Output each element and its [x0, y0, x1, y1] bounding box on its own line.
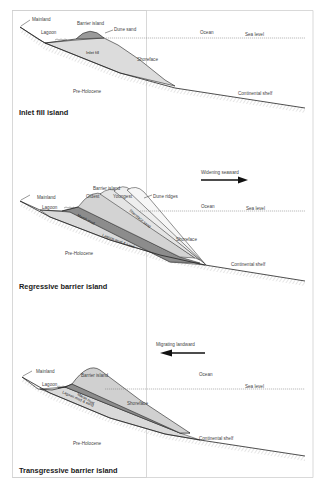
label-pre-holocene: Pre-Holocene: [73, 89, 102, 94]
label-ocean: Ocean: [201, 204, 215, 209]
panel-title-inlet-fill: Inlet fill island: [19, 108, 69, 117]
label-mainland: Mainland: [32, 17, 51, 22]
label-ocean: Ocean: [199, 372, 213, 377]
mainland-leader: [21, 195, 30, 200]
label-continental-shelf: Continental shelf: [231, 262, 266, 267]
label-oldest: Oldest: [86, 194, 100, 199]
label-dune-ridges: Dune ridges: [153, 194, 178, 199]
arrow-left-icon: [160, 350, 172, 357]
label-pre-holocene: Pre-Holocene: [73, 441, 102, 446]
label-barrier-island: Barrier island: [93, 186, 121, 191]
label-barrier-island: Barrier island: [77, 21, 105, 26]
label-lagoon: Lagoon: [41, 30, 57, 35]
label-continental-shelf: Continental shelf: [199, 436, 234, 441]
mainland-leader: [21, 20, 30, 26]
label-pre-holocene: Pre-Holocene: [65, 251, 94, 256]
barrier-island-diagram: Mainland Lagoon Barrier island Dune sand…: [0, 0, 332, 488]
label-migrating-landward: Migrating landward: [156, 342, 195, 347]
panel-title-transgressive: Transgressive barrier island: [19, 466, 118, 475]
label-lagoon: Lagoon: [42, 382, 58, 387]
label-mainland: Mainland: [37, 195, 56, 200]
label-sea-level: Sea level: [245, 384, 264, 389]
panel-title-regressive: Regressive barrier island: [19, 282, 108, 291]
label-shoreface: Shoreface: [127, 401, 148, 406]
dune-sand-leader: [105, 30, 113, 33]
label-shoreface: Shoreface: [137, 57, 158, 62]
label-inlet-fill: Inlet fill: [86, 50, 99, 55]
label-continental-shelf: Continental shelf: [238, 91, 273, 96]
dune-sand: [76, 31, 104, 39]
marsh-grass: [64, 207, 74, 208]
label-sea-level: Sea level: [246, 206, 265, 211]
label-mainland: Mainland: [36, 369, 55, 374]
mainland-leader: [23, 371, 32, 376]
inlet-fill-body: [45, 38, 175, 86]
label-dune-sand: Dune sand: [114, 27, 137, 32]
panel-regressive: Widening seaward Mainland Lagoon Barrier…: [19, 170, 305, 291]
label-barrier-island: Barrier island: [81, 373, 109, 378]
label-ocean: Ocean: [200, 30, 214, 35]
arrow-right-icon: [238, 177, 248, 184]
panel-inlet-fill: Mainland Lagoon Barrier island Dune sand…: [19, 17, 305, 117]
label-youngest: Youngest: [113, 194, 133, 199]
marsh-grass: [55, 39, 67, 40]
label-sea-level: Sea level: [245, 32, 264, 37]
label-lagoon: Lagoon: [42, 205, 58, 210]
label-widening-seaward: Widening seaward: [201, 170, 239, 175]
panel-transgressive: Migrating landward Mainland Lagoon Barri…: [19, 342, 305, 475]
label-shoreface: Shoreface: [176, 237, 197, 242]
